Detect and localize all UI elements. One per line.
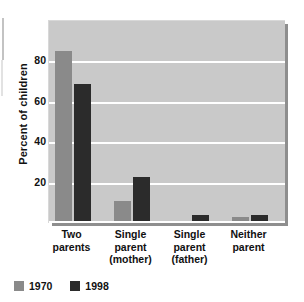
category-label-3: Neitherparent xyxy=(219,228,278,253)
category-label-line: (father) xyxy=(160,253,219,266)
y-tick-label-40: 40 xyxy=(26,136,46,147)
chart-legend: 19701998 xyxy=(14,281,109,292)
x-axis-category-labels: TwoparentsSingleparent(mother)Singlepare… xyxy=(48,228,284,282)
legend-item-1970: 1970 xyxy=(14,281,52,292)
bar-1998-1 xyxy=(133,177,150,223)
category-label-line: Single xyxy=(101,228,160,241)
category-label-line: parent xyxy=(160,241,219,254)
category-label-1: Singleparent(mother) xyxy=(101,228,160,266)
category-label-0: Twoparents xyxy=(42,228,101,253)
category-label-line: Neither xyxy=(219,228,278,241)
category-label-2: Singleparent(father) xyxy=(160,228,219,266)
scan-artifact xyxy=(2,18,4,60)
y-tick-label-80: 80 xyxy=(26,55,46,66)
bar-1998-0 xyxy=(74,84,91,223)
category-label-line: (mother) xyxy=(101,253,160,266)
category-label-line: parent xyxy=(219,241,278,254)
bar-1970-1 xyxy=(114,201,131,223)
legend-item-1998: 1998 xyxy=(70,281,108,292)
category-label-line: parents xyxy=(42,241,101,254)
y-tick-label-20: 20 xyxy=(26,177,46,188)
legend-label-1970: 1970 xyxy=(29,281,52,292)
bars-layer xyxy=(49,21,285,223)
legend-swatch-icon-1998 xyxy=(70,281,80,291)
bar-1970-0 xyxy=(55,51,72,223)
y-tick-label-60: 60 xyxy=(26,96,46,107)
legend-label-1998: 1998 xyxy=(85,281,108,292)
scan-artifact-secondary xyxy=(1,60,3,96)
category-label-line: parent xyxy=(101,241,160,254)
category-label-line: Single xyxy=(160,228,219,241)
legend-swatch-icon-1970 xyxy=(14,281,24,291)
y-axis-tick-labels: 20406080 xyxy=(22,0,46,302)
bar-chart: Percent of children 20406080 TwoparentsS… xyxy=(0,0,304,302)
category-label-line: Two xyxy=(42,228,101,241)
plot-area xyxy=(48,20,285,223)
axis-baseline xyxy=(49,221,285,223)
